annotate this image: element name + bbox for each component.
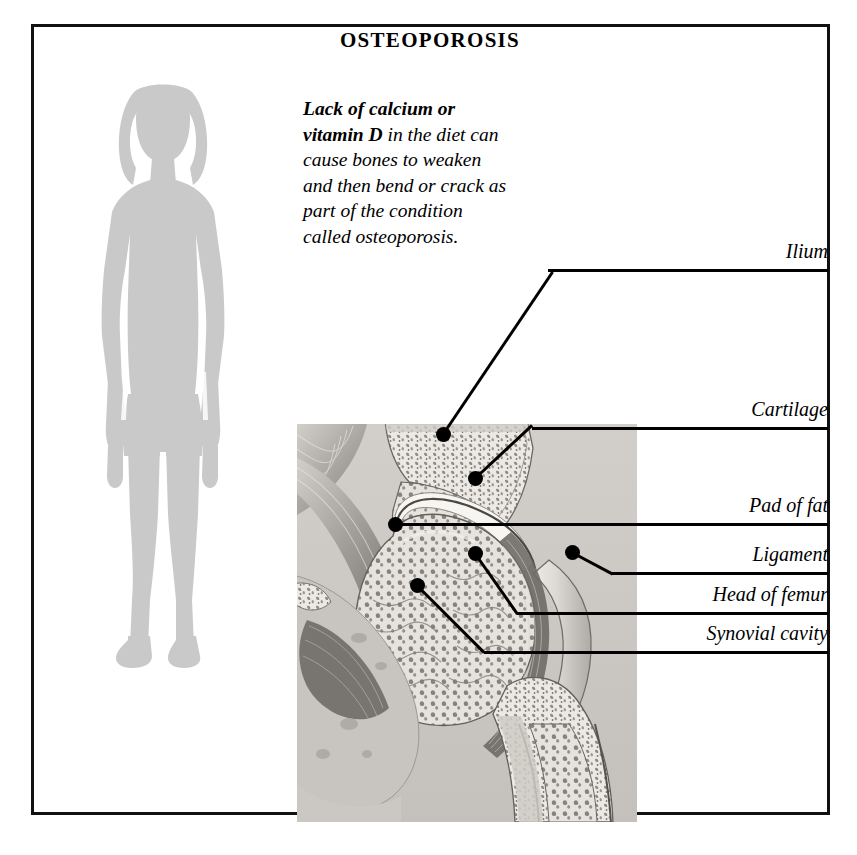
label-pad-of-fat: Pad of fat bbox=[598, 494, 828, 517]
label-ilium: Ilium bbox=[628, 240, 828, 263]
human-figure-silhouette bbox=[78, 84, 248, 674]
synovial-cavity-leader-line bbox=[484, 651, 828, 654]
ilium-leader-line bbox=[548, 269, 828, 272]
silhouette-shape bbox=[78, 84, 248, 674]
label-cartilage: Cartilage bbox=[598, 398, 828, 421]
cartilage-leader-line bbox=[532, 427, 828, 430]
diagram-page: OSTEOPOROSIS Lack of calcium or vitamin … bbox=[0, 0, 857, 855]
page-title: OSTEOPOROSIS bbox=[300, 28, 560, 53]
label-head-of-femur: Head of femur bbox=[568, 583, 828, 606]
ligament-leader-line bbox=[612, 572, 828, 575]
head-of-femur-leader-line bbox=[517, 612, 828, 615]
label-synovial-cavity: Synovial cavity bbox=[558, 622, 828, 645]
description-paragraph: Lack of calcium or vitamin D in the diet… bbox=[303, 96, 508, 249]
pad-of-fat-leader-line bbox=[395, 523, 828, 526]
label-ligament: Ligament bbox=[598, 543, 828, 566]
